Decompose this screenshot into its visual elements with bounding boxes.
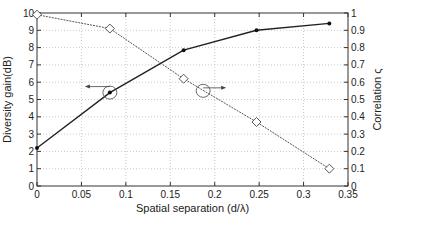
- grid-lines: [37, 13, 348, 186]
- y-right-tick-label: 0.7: [351, 59, 365, 70]
- series-diversity-gain: [35, 21, 331, 150]
- dot-marker: [254, 28, 258, 32]
- y-left-tick-label: 2: [28, 146, 34, 157]
- y-right-tick-label: 0.2: [351, 146, 365, 157]
- y-right-tick-label: 0.1: [351, 163, 365, 174]
- series-group: [33, 10, 334, 173]
- y-right-axis-label: Correlation ς: [371, 68, 383, 130]
- x-axis-label: Spatial separation (d/λ): [136, 202, 249, 214]
- x-axis-ticks: 00.050.10.150.20.250.30.35: [34, 13, 358, 200]
- y-right-tick-label: 0.4: [351, 111, 365, 122]
- y-right-tick-label: 0.8: [351, 42, 365, 53]
- dot-marker: [108, 91, 112, 95]
- arrow-right-icon: [221, 86, 226, 90]
- y-right-tick-label: 0: [351, 181, 357, 192]
- dot-marker: [182, 48, 186, 52]
- x-tick-label: 0.25: [249, 189, 269, 200]
- y-left-axis-ticks: 012345678910: [23, 8, 41, 192]
- dot-marker: [327, 21, 331, 25]
- y-right-axis-ticks: 00.10.20.30.40.50.60.70.80.91: [344, 8, 365, 192]
- series-correlation: [33, 10, 334, 173]
- y-right-tick-label: 0.3: [351, 129, 365, 140]
- y-left-tick-label: 7: [28, 59, 34, 70]
- x-tick-label: 0.05: [72, 189, 92, 200]
- y-left-tick-label: 8: [28, 42, 34, 53]
- diamond-marker: [325, 164, 334, 173]
- diamond-marker: [105, 24, 114, 33]
- y-left-tick-label: 10: [23, 8, 35, 19]
- x-tick-label: 0.3: [297, 189, 311, 200]
- x-tick-label: 0.2: [208, 189, 222, 200]
- y-left-tick-label: 5: [28, 94, 34, 105]
- x-tick-label: 0.15: [161, 189, 181, 200]
- y-right-tick-label: 0.5: [351, 94, 365, 105]
- arrow-left-icon: [85, 85, 90, 89]
- y-right-tick-label: 0.9: [351, 25, 365, 36]
- y-left-tick-label: 9: [28, 25, 34, 36]
- dual-axis-line-chart: 00.050.10.150.20.250.30.35 012345678910 …: [0, 0, 437, 236]
- diamond-marker: [252, 117, 261, 126]
- diamond-marker: [179, 74, 188, 83]
- y-left-tick-label: 6: [28, 77, 34, 88]
- y-left-tick-label: 3: [28, 129, 34, 140]
- y-left-axis-label: Diversity gain(dB): [1, 56, 13, 143]
- axis-annotations: [85, 84, 226, 99]
- x-tick-label: 0.1: [119, 189, 133, 200]
- dot-marker: [35, 146, 39, 150]
- y-right-tick-label: 0.6: [351, 77, 365, 88]
- y-left-tick-label: 1: [28, 163, 34, 174]
- y-left-tick-label: 0: [28, 181, 34, 192]
- x-tick-label: 0: [34, 189, 40, 200]
- y-left-tick-label: 4: [28, 111, 34, 122]
- y-right-tick-label: 1: [351, 8, 357, 19]
